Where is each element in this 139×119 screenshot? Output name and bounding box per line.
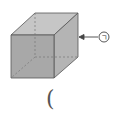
- face-label: ㄱ: [101, 34, 107, 42]
- answer-blank: (: [46, 88, 55, 110]
- front-face: [11, 35, 54, 78]
- arrow-icon: [79, 35, 98, 40]
- cuboid-diagram: ㄱ: [0, 0, 139, 119]
